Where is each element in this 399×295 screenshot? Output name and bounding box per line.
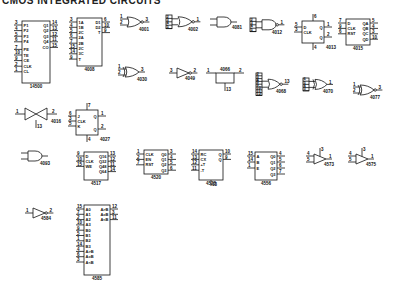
pin-label: 13 — [284, 79, 290, 84]
pin-label: B — [257, 160, 260, 165]
ic-4528: 14RC13CX12+T11-T10Q9Q452813 — [191, 149, 231, 187]
pin-label: A<B — [100, 217, 108, 222]
gate-4093: 4093 — [21, 151, 51, 166]
pin-label: Q0 — [161, 152, 167, 157]
pin-label: 4556 — [261, 181, 272, 186]
pin-label: Q2 — [161, 162, 167, 167]
pin-label: RST — [146, 162, 155, 167]
pin-label: 4049 — [185, 76, 196, 81]
pin-label: EN — [146, 157, 152, 162]
pin-label: 1 — [329, 154, 332, 159]
gate-4068: 23459101112134068 — [256, 71, 290, 96]
pin-label: A=B — [86, 254, 94, 259]
pin-label: B1 — [86, 233, 92, 238]
gate-4081: 4081 — [210, 17, 243, 30]
ic-4015: 7D9CLK6RST5QA4QB3QC10QD4015 — [338, 18, 378, 51]
pin-label: 12 — [52, 32, 58, 37]
pin-label: 14 — [192, 149, 198, 154]
pin-label: 1 — [371, 154, 374, 159]
pin-label: 2 — [239, 68, 242, 73]
pin-label: 4030 — [137, 77, 148, 82]
pin-label: 4081 — [232, 25, 243, 30]
pin-label: RST — [348, 31, 357, 36]
pin-label: K — [78, 124, 81, 129]
gate-4002: 234514002 — [166, 14, 200, 32]
pin-label: Q1 — [43, 23, 49, 28]
pin-label: 2 — [52, 109, 55, 114]
pin-label: A — [257, 154, 260, 159]
pin-label: -T — [201, 168, 205, 173]
pin-label: A<B — [86, 260, 94, 265]
pin-label: B2 — [86, 238, 92, 243]
pin-label: Q — [218, 157, 221, 162]
pin-label: CLK — [348, 26, 356, 31]
pin-label: QB — [363, 26, 369, 31]
pin-label: 4575 — [366, 162, 377, 167]
pin-label: PE — [24, 47, 30, 52]
pin-label: Q3 — [43, 34, 49, 39]
pin-label: 2C — [79, 30, 84, 35]
pin-label: 12 — [112, 204, 118, 209]
pin-label: A=B — [100, 212, 108, 217]
pin-label: 15 — [70, 44, 76, 49]
pin-label: QA — [363, 21, 369, 26]
pin-label: 1 — [207, 68, 210, 73]
pin-label: P2 — [24, 28, 30, 33]
pin-label: Q4 — [43, 39, 49, 44]
pin-label: 4584 — [41, 216, 52, 221]
pin-label: 4002 — [188, 27, 199, 32]
pin-label: D1 — [95, 20, 101, 25]
pin-label: 3 — [170, 68, 173, 73]
pin-label: Q — [93, 127, 96, 132]
ic-4008: 31A41B52C62A72B152C143C9T6D110D29T4008 — [69, 17, 110, 72]
gate-4070: 654314070 — [303, 76, 334, 94]
ic-14500: 3P14P25P36P47PE10TE9CE2CLK1CL14Q113Q212Q… — [14, 20, 58, 89]
pin-label: 3 — [363, 147, 366, 152]
ic-4027: 746J3CLK5K1Q2Q4027 — [68, 103, 111, 142]
pin-label: Q3 — [161, 168, 167, 173]
pin-label: +T — [201, 162, 206, 167]
pin-label: 14 — [52, 20, 58, 25]
pin-label: 3 — [378, 85, 381, 90]
pin-label: Q0 — [270, 154, 276, 159]
pin-label: CX — [201, 157, 207, 162]
pin-label: RC — [201, 152, 207, 157]
pin-label: 1 — [280, 20, 283, 25]
pin-label: 2A — [79, 35, 84, 40]
pin-label: 13 — [37, 124, 43, 129]
pin-label: A>B — [86, 249, 94, 254]
pin-label: D — [348, 21, 351, 26]
pin-label: 14 — [77, 242, 83, 247]
pin-label: Q — [218, 152, 221, 157]
pin-label: 2 — [193, 68, 196, 73]
pin-label: 3C — [79, 51, 84, 56]
pin-label: 10 — [225, 149, 231, 154]
pin-label: 13 — [192, 155, 198, 160]
pin-label: 15 — [77, 204, 83, 209]
pin-label: 4573 — [324, 162, 335, 167]
pin-label: 1B — [79, 25, 84, 30]
pin-label: WE — [86, 164, 93, 169]
pin-label: 4068 — [276, 89, 287, 94]
pin-label: 2B — [79, 41, 84, 46]
pin-label: QD — [363, 37, 369, 42]
pin-label: 7 — [88, 103, 91, 108]
comparator-4575: 45134575 — [348, 147, 377, 167]
pin-label: P3 — [24, 34, 30, 39]
pin-label: A1 — [86, 212, 92, 217]
pin-label: 13 — [52, 26, 58, 31]
pin-label: 2 — [49, 208, 52, 213]
pin-label: 6 — [314, 14, 317, 19]
schematic-canvas: 3P14P25P36P47PE10TE9CE2CLK1CL14Q113Q212Q… — [0, 0, 399, 295]
pin-label: CE — [24, 58, 30, 63]
pin-label: 4 — [88, 137, 91, 142]
ic-4013: 645D3CLK1Q2Q4013 — [294, 14, 337, 50]
pin-label: 1 — [329, 80, 332, 85]
pin-label: 4066 — [220, 67, 231, 72]
pin-label: B0 — [86, 228, 92, 233]
pin-label: 10 — [15, 50, 21, 55]
pin-label: 4520 — [151, 175, 162, 180]
pin-label: 3 — [145, 17, 148, 22]
pin-label: 4013 — [326, 45, 337, 50]
pin-label: 3 — [321, 147, 324, 152]
